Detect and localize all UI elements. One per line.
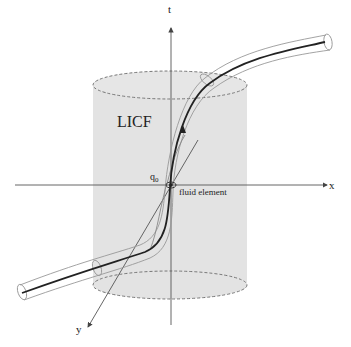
fluid-element-label: fluid element	[179, 187, 227, 197]
t-axis-label: t	[168, 3, 171, 15]
q0-point	[169, 183, 173, 187]
licf-diagram: t x y LICF q0 fluid element	[0, 0, 351, 347]
licf-label: LICF	[117, 113, 152, 130]
cylinder-top-edge	[93, 71, 247, 99]
x-axis-label: x	[329, 179, 335, 191]
y-axis-label: y	[76, 323, 82, 335]
